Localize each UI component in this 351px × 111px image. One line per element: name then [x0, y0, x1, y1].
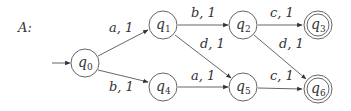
label-q0-q1: a, 1: [109, 20, 133, 35]
automaton-diagram: A: a, 1 b, 1 b, 1 d, 1 c, 1 d, 1 a, 1 c,…: [0, 0, 351, 111]
state-q6-final: q6: [304, 75, 332, 103]
edge-q5-q6: [258, 88, 302, 89]
state-q0: q0: [71, 49, 99, 77]
state-q2: q2: [229, 11, 257, 39]
label-q2-q6: d, 1: [279, 36, 304, 51]
automaton-title: A:: [17, 20, 32, 35]
label-q4-q5: a, 1: [191, 68, 215, 83]
state-q4: q4: [149, 73, 177, 101]
label-q1-q5: d, 1: [200, 36, 225, 51]
label-q2-q3: c, 1: [270, 5, 294, 20]
state-q3-final: q3: [304, 11, 332, 39]
label-q1-q2: b, 1: [191, 5, 216, 20]
state-q5: q5: [229, 73, 257, 101]
state-q1: q1: [149, 11, 177, 39]
label-q5-q6: c, 1: [270, 68, 294, 83]
label-q0-q4: b, 1: [109, 79, 134, 94]
